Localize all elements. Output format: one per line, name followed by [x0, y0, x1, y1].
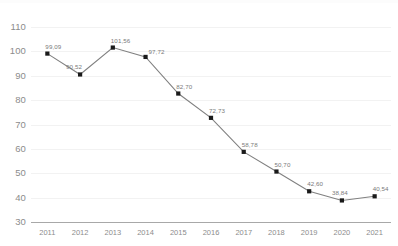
- data-point-label: 97,72: [149, 48, 165, 55]
- data-point-label: 90,52: [66, 63, 82, 70]
- line-chart: 11010090807060504030 99,0990,52101,5697,…: [0, 0, 398, 246]
- data-point-label: 72,73: [209, 107, 225, 114]
- data-point-label: 58,78: [242, 141, 258, 148]
- data-point-label: 38,84: [332, 189, 348, 196]
- data-point-marker: [373, 194, 377, 198]
- data-point-label: 40,54: [373, 185, 389, 192]
- data-point-marker: [242, 150, 246, 154]
- data-point-label: 42,60: [307, 180, 323, 187]
- data-point-marker: [143, 55, 147, 59]
- data-point-marker: [340, 198, 344, 202]
- data-point-label: 99,09: [45, 43, 61, 50]
- data-point-marker: [78, 72, 82, 76]
- data-point-label: 50,70: [274, 161, 290, 168]
- data-point-marker: [45, 51, 49, 55]
- x-tick-label: 2021: [355, 228, 395, 237]
- data-point-marker: [111, 45, 115, 49]
- data-point-marker: [209, 116, 213, 120]
- data-point-marker: [176, 91, 180, 95]
- data-point-label: 101,56: [111, 37, 131, 44]
- series-line: [47, 48, 374, 201]
- series-line-group: [0, 0, 398, 246]
- series-markers: [45, 45, 376, 202]
- data-point-marker: [274, 169, 278, 173]
- data-point-label: 82,70: [176, 83, 192, 90]
- data-point-marker: [307, 189, 311, 193]
